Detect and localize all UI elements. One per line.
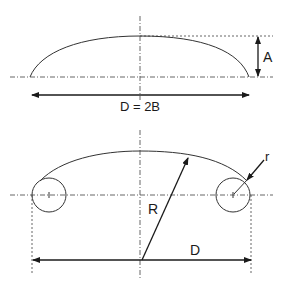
torispherical-head-diagram: R r D <box>10 130 273 280</box>
elliptical-head-diagram: A D = 2B <box>10 16 273 114</box>
crown-arc <box>40 151 247 181</box>
height-label: A <box>263 49 273 65</box>
knuckle-radius-arrow <box>247 160 264 180</box>
elliptical-dome-curve <box>30 36 249 77</box>
knuckle-radius-inner-line <box>234 180 247 194</box>
diameter-label: D <box>190 242 200 258</box>
width-label: D = 2B <box>120 99 160 114</box>
dished-head-diagram: A D = 2B R r D <box>0 0 284 282</box>
knuckle-radius-label: r <box>265 149 270 164</box>
crown-radius-label: R <box>148 201 158 217</box>
